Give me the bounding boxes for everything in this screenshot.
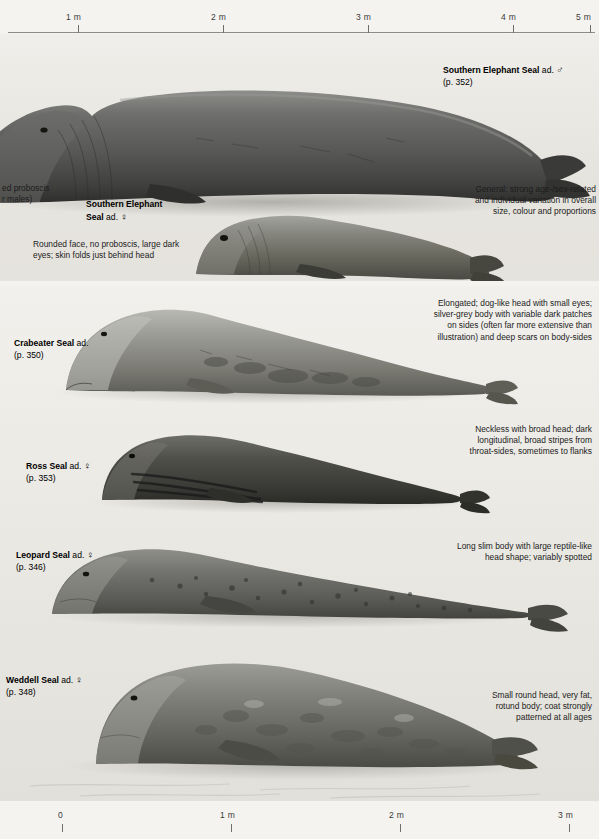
scale-label: 2 m — [389, 810, 404, 820]
caption-general-note: General: strong age-/sex-related and ind… — [424, 184, 596, 218]
species-label-leopard-seal: Leopard Seal ad. ♀(p. 346) — [16, 549, 94, 573]
scale-label: 3 m — [356, 12, 371, 22]
species-age: ad. — [69, 461, 81, 471]
scale-label: 3 m — [558, 810, 573, 820]
scale-rule — [8, 32, 595, 33]
scale-tick — [223, 25, 224, 33]
species-common-name: Leopard Seal — [16, 550, 70, 560]
field-guide-plate-page: 1 m 2 m 3 m 4 m 5 m — [0, 0, 599, 839]
species-label-weddell-seal: Weddell Seal ad. ♀(p. 348) — [6, 674, 83, 698]
species-label-southern-elephant-seal-female: Southern ElephantSeal ad. ♀ — [86, 199, 162, 223]
scale-tick — [590, 25, 591, 33]
species-label-crabeater-seal: Crabeater Seal ad.(p. 350) — [14, 338, 89, 361]
sex-symbol-female-icon: ♀ — [120, 211, 127, 222]
scale-label: 1 m — [66, 12, 81, 22]
scale-tick — [513, 25, 514, 33]
caption-leopard-seal: Long slim body with large reptile-like h… — [410, 541, 592, 563]
sex-symbol-female-icon: ♀ — [76, 674, 83, 685]
scale-tick — [62, 824, 63, 832]
species-page-ref: (p. 348) — [6, 687, 83, 699]
scale-tick — [78, 25, 79, 33]
bottom-scale-bar: 0 1 m 2 m 3 m — [0, 800, 599, 834]
species-page-ref: (p. 353) — [26, 473, 91, 485]
species-age: ad. — [542, 65, 554, 75]
scale-label: 2 m — [211, 12, 226, 22]
scale-tick — [368, 25, 369, 33]
species-page-ref: (p. 352) — [443, 77, 563, 89]
species-label-ross-seal: Ross Seal ad. ♀(p. 353) — [26, 460, 91, 484]
species-page-ref: (p. 350) — [14, 350, 89, 362]
caption-weddell-seal: Small round head, very fat, rotund body;… — [430, 690, 592, 724]
species-common-name: Weddell Seal — [6, 675, 59, 685]
species-age: ad. — [77, 338, 89, 348]
species-label-southern-elephant-seal-male: Southern Elephant Seal ad. ♂(p. 352) — [443, 64, 563, 88]
species-common-name: Ross Seal — [26, 461, 67, 471]
scale-tick — [569, 824, 570, 832]
scale-tick — [231, 824, 232, 832]
scale-label: 5 m — [576, 12, 591, 22]
caption-ross-seal: Neckless with broad head; dark longitudi… — [388, 424, 592, 458]
species-common-name: Crabeater Seal — [14, 338, 74, 348]
species-age: ad. — [61, 675, 73, 685]
scale-tick — [400, 824, 401, 832]
sex-symbol-female-icon: ♀ — [87, 549, 94, 560]
scale-label: 4 m — [501, 12, 516, 22]
sex-symbol-female-icon: ♀ — [84, 460, 91, 471]
species-common-name-line1: Southern Elephant — [86, 199, 162, 209]
sex-symbol-male-icon: ♂ — [556, 64, 563, 75]
species-common-name: Southern Elephant Seal — [443, 65, 539, 75]
species-page-ref: (p. 346) — [16, 562, 94, 574]
species-common-name-line2: Seal — [86, 212, 104, 222]
scale-label: 1 m — [220, 810, 235, 820]
species-age: ad. — [106, 212, 118, 222]
scale-label: 0 — [58, 810, 63, 820]
caption-crabeater-seal: Elongated; dog-like head with small eyes… — [340, 298, 592, 343]
caption-elephant-seal-female: Rounded face, no proboscis, large dark e… — [33, 239, 223, 261]
species-age: ad. — [72, 550, 84, 560]
clipped-left-caption: ed proboscis r males) — [2, 183, 50, 205]
